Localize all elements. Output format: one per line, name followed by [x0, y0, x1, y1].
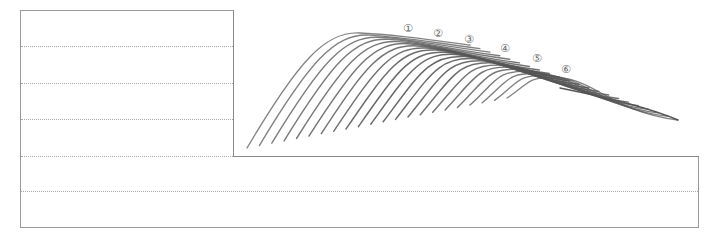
step-marker-2: ② [433, 28, 443, 39]
step-marker-3: ③ [464, 34, 474, 45]
stroke-illustration [0, 0, 719, 243]
practice-sheet: ① ② ③ ④ ⑤ ⑥ [0, 0, 719, 243]
step-marker-6: ⑥ [561, 64, 571, 75]
step-marker-5: ⑤ [532, 53, 542, 64]
step-marker-4: ④ [500, 43, 510, 54]
step-marker-1: ① [403, 23, 413, 34]
